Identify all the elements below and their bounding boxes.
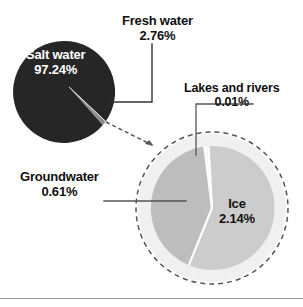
label-groundwater-value: 0.61%	[20, 185, 99, 200]
label-salt-water-value: 97.24%	[26, 63, 85, 78]
detail-pie-group	[136, 132, 288, 284]
label-lakes-and-rivers-name: Lakes and rivers	[184, 81, 279, 95]
label-fresh-water-value: 2.76%	[122, 29, 193, 44]
label-ice-name: Ice	[219, 197, 255, 212]
label-fresh-water-name: Fresh water	[122, 14, 193, 29]
connector-arrow	[106, 122, 154, 146]
label-ice: Ice 2.14%	[219, 197, 255, 226]
label-ice-value: 2.14%	[219, 212, 255, 227]
label-salt-water: Salt water 97.24%	[26, 48, 85, 77]
label-lakes-and-rivers-value: 0.01%	[184, 95, 279, 109]
water-distribution-figure: Fresh water 2.76% Salt water 97.24% Lake…	[0, 0, 303, 307]
label-salt-water-name: Salt water	[26, 48, 85, 63]
bottom-divider-rule	[0, 298, 303, 299]
label-groundwater-name: Groundwater	[20, 170, 99, 185]
fresh-water-leader	[110, 44, 152, 102]
label-fresh-water: Fresh water 2.76%	[122, 14, 193, 43]
label-groundwater: Groundwater 0.61%	[20, 170, 99, 199]
label-lakes-and-rivers: Lakes and rivers 0.01%	[184, 81, 279, 109]
